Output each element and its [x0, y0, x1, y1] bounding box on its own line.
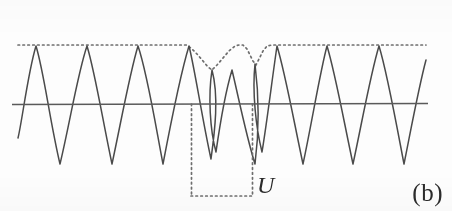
- upper-envelope-dotted-line: [18, 45, 426, 70]
- zero-axis-line: [12, 104, 428, 105]
- waveform-plot: [0, 0, 452, 211]
- panel-label-b: (b): [412, 180, 443, 205]
- figure-panel: U (b): [0, 0, 452, 211]
- interval-label-u: U: [257, 173, 274, 197]
